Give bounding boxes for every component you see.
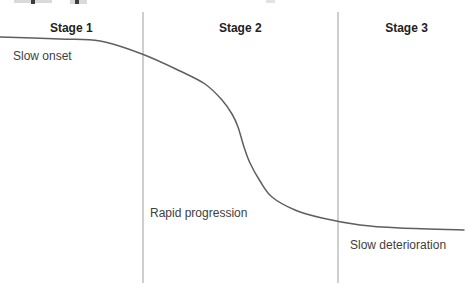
stage-progression-figure: Stage 1 Stage 2 Stage 3 Slow onset Rapid… bbox=[0, 0, 475, 290]
decline-curve-plot bbox=[0, 0, 475, 290]
decline-curve bbox=[0, 37, 464, 230]
